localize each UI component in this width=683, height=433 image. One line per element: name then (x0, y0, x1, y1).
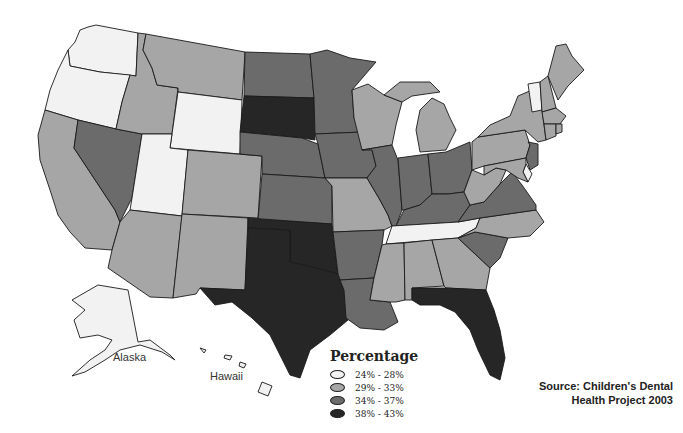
legend-label: 34% - 37% (355, 396, 404, 406)
source-line-2: Health Project 2003 (539, 393, 673, 407)
legend-swatch-icon (330, 383, 345, 392)
legend-item: 24% - 28% (330, 368, 418, 381)
source-line-1: Source: Children's Dental (539, 379, 673, 393)
legend-label: 29% - 33% (355, 383, 404, 393)
state-maine (548, 44, 584, 100)
source-note: Source: Children's Dental Health Project… (539, 379, 673, 407)
state-kansas (258, 174, 332, 224)
legend-item: 34% - 37% (330, 394, 418, 407)
state-florida (412, 288, 505, 380)
state-colorado (182, 150, 262, 218)
state-rhode-island (556, 124, 562, 134)
alaska-label: Alaska (113, 351, 146, 363)
legend-item: 29% - 33% (330, 381, 418, 394)
state-wyoming (170, 92, 242, 154)
legend-label: 38% - 43% (355, 409, 404, 419)
legend-swatch-icon (330, 409, 345, 418)
legend-swatch-icon (330, 396, 345, 405)
state-new-mexico (173, 214, 248, 298)
legend-item: 38% - 43% (330, 407, 418, 420)
state-north-dakota (244, 52, 314, 98)
legend-swatch-icon (330, 370, 345, 379)
legend-title: Percentage (330, 348, 418, 364)
legend-label: 24% - 28% (355, 370, 404, 380)
state-connecticut (544, 124, 556, 140)
hawaii-label: Hawaii (210, 370, 243, 382)
legend: Percentage 24% - 28% 29% - 33% 34% - 37%… (330, 348, 418, 420)
